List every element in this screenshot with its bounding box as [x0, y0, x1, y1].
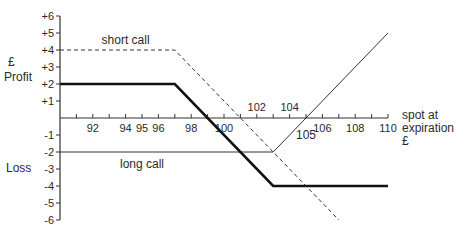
y-tick-label: +2: [41, 78, 54, 90]
annotation-label: 105: [296, 128, 316, 142]
y-tick-label: +5: [41, 27, 54, 39]
annotation-label: long call: [120, 157, 164, 171]
y-tick-label: -3: [44, 163, 54, 175]
annotation-label: short call: [102, 33, 150, 47]
y-tick-label: +1: [41, 95, 54, 107]
y-axis: +6+5+4+3+2+1-1-2-3-4-5-6: [41, 10, 60, 226]
y-tick-label: -1: [44, 129, 54, 141]
x-tick-label: 108: [346, 122, 364, 134]
y-axis-title: Profit: [4, 70, 33, 84]
x-tick-label: 92: [87, 122, 99, 134]
series-combined-bear-spread--line: [60, 84, 388, 186]
x-tick-label: 95: [136, 122, 148, 134]
x-axis-title: spot at: [402, 108, 439, 122]
x-tick-label: 110: [379, 122, 397, 134]
y-tick-label: -5: [44, 197, 54, 209]
y-tick-label: +3: [41, 61, 54, 73]
x-tick-label: 96: [152, 122, 164, 134]
x-tick-label: 94: [119, 122, 131, 134]
x-tick-label: 98: [185, 122, 197, 134]
y-tick-label: -2: [44, 146, 54, 158]
x-tick-label: 102: [248, 101, 266, 113]
x-axis-title: £: [402, 134, 409, 148]
x-axis-title: expiration: [402, 121, 454, 135]
axis-labels: short calllong call105£ProfitLossspot at…: [4, 33, 454, 175]
payoff-chart: +6+5+4+3+2+1-1-2-3-4-5-6 929495969810010…: [0, 0, 460, 237]
y-axis-title: £: [8, 55, 15, 69]
y-axis-loss-label: Loss: [6, 161, 31, 175]
y-tick-label: +6: [41, 10, 54, 22]
y-tick-label: -6: [44, 214, 54, 226]
y-tick-label: +4: [41, 44, 54, 56]
y-tick-label: -4: [44, 180, 54, 192]
x-tick-label: 104: [280, 101, 298, 113]
